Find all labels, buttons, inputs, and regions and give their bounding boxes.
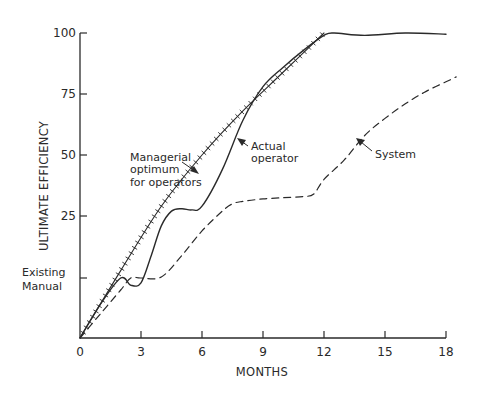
efficiency-chart: 100755025 369121518 0 MONTHS ULTIMATE EF…	[0, 0, 479, 396]
hatch-mark	[148, 220, 153, 223]
hatch-mark	[155, 210, 160, 213]
hatch-mark	[116, 273, 121, 276]
y-axis-title: ULTIMATE EFFICIENCY	[37, 120, 51, 251]
hatch-mark	[152, 215, 157, 218]
y-tick-label: 25	[61, 209, 76, 223]
y-axis-ticks: 100755025	[53, 26, 87, 278]
hatch-mark	[126, 257, 131, 260]
hatch-mark	[122, 262, 127, 265]
y-tick-label: 50	[61, 148, 76, 162]
svg-text:Existing: Existing	[22, 266, 66, 279]
series-managerial-optimum-for-operators	[80, 32, 324, 338]
existing-manual-label: Existing Manual	[22, 266, 66, 293]
series-line	[80, 77, 456, 338]
x-axis-title: MONTHS	[236, 365, 288, 379]
svg-text:Manual: Manual	[22, 280, 62, 293]
x-tick-label: 12	[316, 345, 331, 359]
annotation-actual-operator: Actual operator	[237, 138, 299, 165]
x-tick-label: 15	[377, 345, 392, 359]
annotation-managerial-optimum: Managerial optimum for operators	[130, 151, 202, 189]
y-tick-label: 75	[61, 87, 76, 101]
svg-text:optimum: optimum	[130, 163, 179, 176]
svg-text:operator: operator	[251, 152, 299, 165]
x-axis-ticks: 369121518	[137, 331, 453, 359]
arrow-head-icon	[237, 138, 246, 146]
hatch-mark	[159, 204, 164, 207]
series-system	[80, 77, 456, 338]
svg-text:for operators: for operators	[130, 176, 202, 189]
hatch-mark	[132, 246, 137, 249]
x-tick-label: 3	[137, 345, 145, 359]
arrow-line	[361, 142, 372, 151]
annotation-system: System	[356, 138, 416, 161]
hatch-mark	[163, 199, 168, 203]
x-tick-label: 6	[198, 345, 206, 359]
x-tick-label: 18	[438, 345, 453, 359]
x-tick-label: 9	[259, 345, 267, 359]
hatch-mark	[166, 194, 171, 198]
origin-label: 0	[76, 345, 84, 359]
svg-text:System: System	[375, 148, 416, 161]
hatch-mark	[119, 267, 124, 270]
series-line	[80, 33, 324, 338]
y-tick-label: 100	[53, 26, 76, 40]
hatch-mark	[129, 252, 134, 255]
